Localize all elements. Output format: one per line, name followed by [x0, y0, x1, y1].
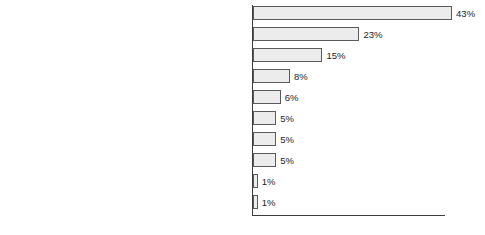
bar-value-label: 5%: [280, 132, 294, 147]
bar: [253, 27, 359, 41]
bar: [253, 6, 452, 20]
bar: [253, 48, 322, 62]
bar-value-label: 5%: [280, 153, 294, 168]
bar: [253, 69, 290, 83]
bar: [253, 153, 276, 167]
x-axis-line: [252, 215, 445, 216]
bar-value-label: 43%: [456, 6, 475, 21]
bar-value-label: 1%: [262, 195, 276, 210]
bar-value-label: 6%: [285, 90, 299, 105]
bar: [253, 174, 258, 188]
bar: [253, 111, 276, 125]
bar-value-label: 15%: [326, 48, 345, 63]
bar: [253, 90, 281, 104]
plot-area: I haven't had time43%I haven't thought a…: [0, 0, 485, 235]
bar: [253, 132, 276, 146]
bar-value-label: 8%: [294, 69, 308, 84]
bar-value-label: 23%: [363, 27, 382, 42]
bar: [253, 195, 258, 209]
bar-value-label: 5%: [280, 111, 294, 126]
bar-chart: I haven't had time43%I haven't thought a…: [0, 0, 485, 235]
bar-value-label: 1%: [262, 174, 276, 189]
